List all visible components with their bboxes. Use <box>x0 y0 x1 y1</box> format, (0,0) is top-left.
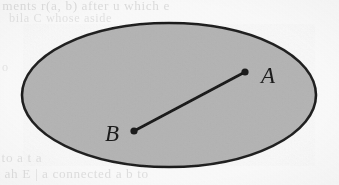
point-b-label: B <box>105 121 119 146</box>
point-b-dot <box>130 127 137 134</box>
point-a-label: A <box>259 63 276 88</box>
figure-container: ments r(a, b) after u which e bila C who… <box>0 0 339 185</box>
point-a-dot <box>241 68 248 75</box>
convex-set-diagram: A B <box>0 0 339 185</box>
fill-grain-overlay <box>23 24 315 166</box>
